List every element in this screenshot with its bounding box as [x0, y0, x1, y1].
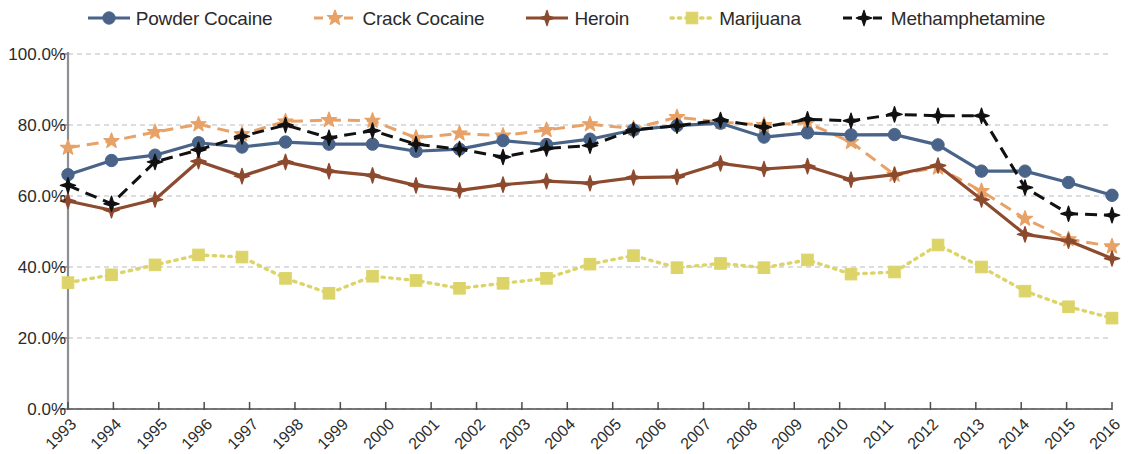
- x-axis-tick-label: 1993: [0, 416, 79, 454]
- x-axis-labels: 1993199419951996199719981999200020012002…: [0, 0, 1131, 454]
- line-chart: Powder CocaineCrack CocaineHeroinMarijua…: [0, 0, 1131, 454]
